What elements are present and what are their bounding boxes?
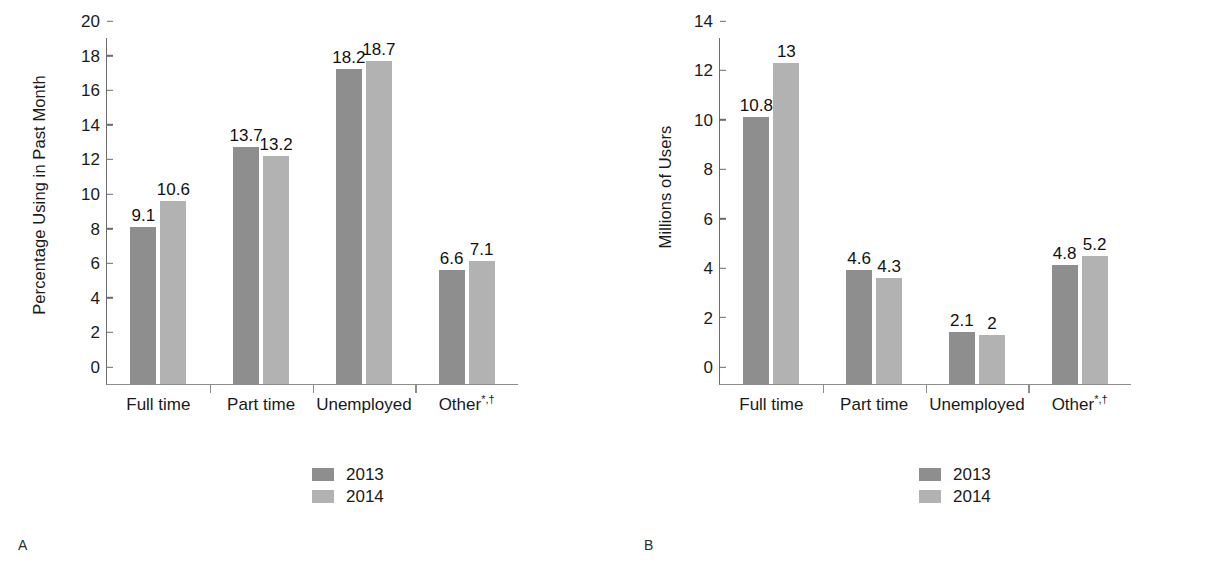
bar-value-label-a-3-2014: 7.1 [470,241,494,258]
legend-label-2013-b: 2013 [953,466,991,483]
y-tick-a-0: 0 [91,359,107,376]
x-category-label-b-0: Full time [739,396,803,415]
y-tick-b-8: 8 [704,161,720,178]
x-category-footnote-a-3: *,† [481,393,494,405]
bar-b-2-2013[interactable]: 2.1 [949,332,975,384]
y-tick-b-6: 6 [704,210,720,227]
y-tick-mark-a-20 [107,20,113,21]
bar-a-2-2014[interactable]: 18.7 [366,61,392,385]
y-tick-label-a-0: 0 [91,359,107,376]
y-tick-a-6: 6 [91,255,107,272]
bar-fill-b-0-2014 [773,63,799,384]
bar-value-label-b-2-2013: 2.1 [950,312,974,329]
bar-fill-a-1-2013 [233,147,259,384]
x-tick-a-1 [210,384,211,393]
figure-two-panel-bar-charts: Percentage Using in Past Month 9.110.613… [0,0,1229,571]
y-tick-b-0: 0 [704,359,720,376]
plot-area-b: 10.8134.64.32.124.85.2 02468101214Full t… [719,38,1131,385]
y-tick-mark-b-0 [720,366,726,367]
bar-a-1-2014[interactable]: 13.2 [263,156,289,384]
bar-fill-b-1-2013 [846,270,872,384]
y-tick-label-b-8: 8 [704,161,720,178]
bar-a-2-2013[interactable]: 18.2 [336,69,362,384]
bar-a-3-2013[interactable]: 6.6 [439,270,465,384]
y-tick-label-a-6: 6 [91,255,107,272]
bar-value-label-a-3-2013: 6.6 [440,250,464,267]
y-tick-a-2: 2 [91,324,107,341]
bar-fill-a-0-2013 [130,227,156,384]
bar-fill-a-2-2013 [336,69,362,384]
bar-fill-b-0-2013 [743,117,769,384]
y-tick-label-b-10: 10 [694,111,720,128]
bar-fill-b-3-2013 [1052,265,1078,384]
legend-swatch-2013-b [919,468,941,481]
panel-letter-b: B [644,537,654,553]
legend-label-2014-a: 2014 [346,488,384,505]
x-category-label-b-3: Other*,† [1052,396,1108,415]
bar-b-0-2014[interactable]: 13 [773,63,799,384]
x-tick-b-1 [823,384,824,393]
x-tick-a-2 [313,384,314,393]
x-category-label-a-2: Unemployed [316,396,411,415]
y-tick-label-a-20: 20 [81,13,107,30]
y-tick-a-18: 18 [81,47,107,64]
legend-item-2014-a[interactable]: 2014 [312,488,384,505]
legend-a: 2013 2014 [312,466,384,505]
x-category-label-b-1: Part time [840,396,908,415]
panel-b: Millions of Users 10.8134.64.32.124.85.2… [614,0,1228,571]
bar-a-3-2014[interactable]: 7.1 [469,261,495,384]
bar-fill-a-3-2014 [469,261,495,384]
legend-swatch-2013-a [312,468,334,481]
bar-fill-b-1-2014 [876,278,902,384]
y-tick-label-a-14: 14 [81,116,107,133]
bar-a-0-2014[interactable]: 10.6 [160,201,186,384]
bars-group-b: 10.8134.64.32.124.85.2 [720,38,1131,384]
bar-value-label-b-1-2013: 4.6 [847,250,871,267]
bar-fill-a-1-2014 [263,156,289,384]
bar-fill-b-2-2014 [979,335,1005,384]
y-tick-mark-a-18 [107,55,113,56]
y-tick-label-b-14: 14 [694,13,720,30]
legend-item-2013-b[interactable]: 2013 [919,466,991,483]
y-tick-b-12: 12 [694,62,720,79]
y-tick-label-b-6: 6 [704,210,720,227]
y-tick-mark-b-2 [720,317,726,318]
y-tick-label-a-8: 8 [91,220,107,237]
x-category-label-b-2: Unemployed [929,396,1024,415]
bar-a-0-2013[interactable]: 9.1 [130,227,156,384]
bar-fill-a-3-2013 [439,270,465,384]
bar-b-0-2013[interactable]: 10.8 [743,117,769,384]
legend-item-2013-a[interactable]: 2013 [312,466,384,483]
y-tick-mark-b-14 [720,20,726,21]
y-tick-a-4: 4 [91,289,107,306]
bar-b-3-2014[interactable]: 5.2 [1082,256,1108,385]
y-tick-mark-b-10 [720,119,726,120]
y-axis-title-b: Millions of Users [652,0,678,382]
y-tick-a-8: 8 [91,220,107,237]
x-category-label-a-0: Full time [126,396,190,415]
bar-value-label-b-0-2013: 10.8 [740,97,773,114]
y-tick-label-a-18: 18 [81,47,107,64]
legend-item-2014-b[interactable]: 2014 [919,488,991,505]
y-tick-a-16: 16 [81,82,107,99]
bar-a-1-2013[interactable]: 13.7 [233,147,259,384]
bar-value-label-b-0-2014: 13 [777,43,796,60]
plot-area-a: 9.110.613.713.218.218.76.67.1 0246810121… [106,38,518,385]
bar-b-3-2013[interactable]: 4.8 [1052,265,1078,384]
panel-a: Percentage Using in Past Month 9.110.613… [0,0,614,571]
bar-b-2-2014[interactable]: 2 [979,335,1005,384]
y-tick-mark-a-14 [107,124,113,125]
x-tick-a-3 [415,384,416,393]
bar-b-1-2014[interactable]: 4.3 [876,278,902,384]
legend-b: 2013 2014 [919,466,991,505]
y-tick-a-12: 12 [81,151,107,168]
bar-value-label-b-3-2014: 5.2 [1083,236,1107,253]
bar-fill-b-3-2014 [1082,256,1108,385]
y-tick-label-a-16: 16 [81,82,107,99]
legend-label-2014-b: 2014 [953,488,991,505]
legend-swatch-2014-b [919,490,941,503]
y-tick-mark-a-6 [107,263,113,264]
y-tick-label-a-2: 2 [91,324,107,341]
y-tick-label-b-4: 4 [704,260,720,277]
bar-b-1-2013[interactable]: 4.6 [846,270,872,384]
